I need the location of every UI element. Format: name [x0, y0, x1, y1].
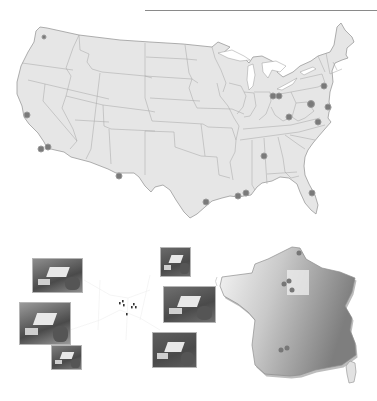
france-outline	[220, 247, 356, 376]
campus-building-marker	[131, 306, 133, 308]
paris-1-site-marker	[282, 282, 287, 287]
washington-site-marker	[42, 35, 46, 39]
campus-building-marker	[123, 304, 125, 306]
tree-cover	[181, 352, 194, 366]
building-shape	[55, 360, 62, 364]
us-map	[17, 23, 354, 218]
ohio-1-site-marker	[270, 93, 276, 99]
north-site-marker	[297, 251, 302, 256]
photo-facility-2	[19, 302, 71, 345]
building-shape	[177, 296, 201, 307]
tree-cover	[53, 326, 68, 342]
california-north-site-marker	[24, 112, 30, 118]
campus-roads	[70, 275, 160, 340]
florida-site-marker	[309, 190, 315, 196]
us-outline	[17, 23, 354, 218]
alabama-site-marker	[261, 153, 267, 159]
building-shape	[60, 352, 75, 359]
building-shape	[164, 265, 171, 270]
campus-building-marker	[122, 300, 124, 302]
paris-3-site-marker	[290, 288, 295, 293]
bracket-mark	[216, 277, 218, 286]
building-shape	[38, 279, 50, 285]
building-shape	[164, 342, 185, 352]
california-south-2-site-marker	[45, 144, 51, 150]
building-shape	[169, 255, 184, 263]
building-shape	[169, 308, 182, 314]
virginia-site-marker	[315, 119, 321, 125]
campus-building-marker	[133, 303, 135, 305]
campus-building-marker	[126, 313, 128, 315]
louisiana-2-site-marker	[243, 190, 249, 196]
new-jersey-site-marker	[321, 83, 327, 89]
france-map	[220, 247, 358, 383]
building-shape	[46, 267, 70, 277]
corsica	[346, 361, 356, 383]
california-south-1-site-marker	[38, 146, 44, 152]
tree-cover	[65, 277, 80, 290]
ohio-2-site-marker	[276, 93, 282, 99]
campus-building-marker	[119, 302, 121, 304]
building-shape	[157, 353, 168, 359]
photo-facility-5	[163, 286, 216, 323]
south-1-site-marker	[279, 348, 284, 353]
tree-cover	[71, 359, 80, 368]
south-2-site-marker	[285, 346, 290, 351]
louisiana-1-site-marker	[235, 193, 241, 199]
photo-facility-3	[51, 345, 82, 370]
photo-facility-4	[160, 247, 191, 277]
tree-cover	[197, 306, 212, 320]
photo-facility-1	[32, 258, 83, 293]
building-shape	[25, 328, 38, 335]
tree-cover	[180, 263, 189, 274]
new-mexico-site-marker	[116, 173, 122, 179]
delaware-coast-site-marker	[325, 104, 331, 110]
campus-building-marker	[135, 306, 137, 308]
paris-2-site-marker	[287, 279, 292, 284]
photo-facility-6	[152, 332, 197, 368]
building-shape	[33, 313, 57, 325]
west-virginia-site-marker	[286, 114, 292, 120]
maryland-site-marker	[308, 101, 315, 108]
texas-houston-site-marker	[203, 199, 209, 205]
